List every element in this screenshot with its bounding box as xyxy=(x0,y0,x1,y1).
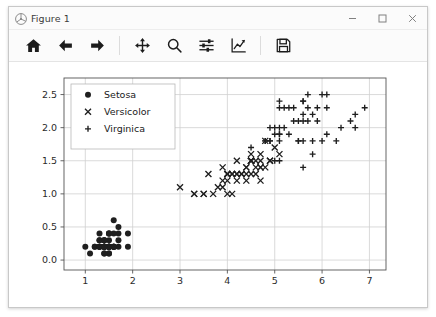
figure-window: Figure 1 xyxy=(8,6,428,308)
forward-button[interactable] xyxy=(84,33,110,59)
svg-text:3: 3 xyxy=(177,275,183,286)
figure-toolbar xyxy=(9,30,427,62)
back-button[interactable] xyxy=(52,33,78,59)
svg-text:0.0: 0.0 xyxy=(42,254,57,265)
legend-label-setosa: Setosa xyxy=(104,89,136,100)
svg-text:1.5: 1.5 xyxy=(42,155,57,166)
window-controls xyxy=(337,7,427,29)
svg-text:2: 2 xyxy=(130,275,136,286)
customize-button[interactable] xyxy=(225,33,251,59)
pan-button[interactable] xyxy=(129,33,155,59)
save-button[interactable] xyxy=(270,33,296,59)
matplotlib-icon xyxy=(14,11,28,25)
legend-label-virginica: Virginica xyxy=(104,123,145,134)
svg-text:2.5: 2.5 xyxy=(42,89,57,100)
subplots-button[interactable] xyxy=(193,33,219,59)
svg-text:0.5: 0.5 xyxy=(42,221,57,232)
home-button[interactable] xyxy=(20,33,46,59)
scatter-plot: 12345670.00.51.01.52.02.5 SetosaVersicol… xyxy=(9,62,427,308)
svg-text:7: 7 xyxy=(366,275,372,286)
svg-text:4: 4 xyxy=(224,275,230,286)
maximize-button[interactable] xyxy=(367,7,397,29)
svg-text:5: 5 xyxy=(272,275,278,286)
legend-label-versicolor: Versicolor xyxy=(104,106,151,117)
svg-text:2.0: 2.0 xyxy=(42,122,57,133)
toolbar-separator xyxy=(119,36,120,55)
svg-text:6: 6 xyxy=(319,275,325,286)
window-titlebar: Figure 1 xyxy=(9,7,427,30)
minimize-button[interactable] xyxy=(337,7,367,29)
plot-legend: SetosaVersicolorVirginica xyxy=(71,84,175,149)
svg-text:1: 1 xyxy=(82,275,88,286)
toolbar-separator xyxy=(260,36,261,55)
figure-canvas[interactable]: 12345670.00.51.01.52.02.5 SetosaVersicol… xyxy=(9,62,427,308)
close-button[interactable] xyxy=(397,7,427,29)
window-title: Figure 1 xyxy=(31,13,70,24)
zoom-button[interactable] xyxy=(161,33,187,59)
svg-text:1.0: 1.0 xyxy=(42,188,57,199)
